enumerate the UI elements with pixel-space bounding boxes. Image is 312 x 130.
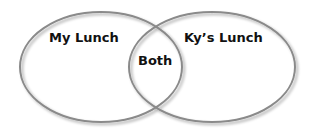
venn-diagram: My Lunch Ky’s Lunch Both bbox=[0, 0, 312, 130]
intersection-label: Both bbox=[138, 53, 172, 68]
right-set-label: Ky’s Lunch bbox=[184, 30, 263, 45]
left-set-label: My Lunch bbox=[49, 30, 119, 45]
